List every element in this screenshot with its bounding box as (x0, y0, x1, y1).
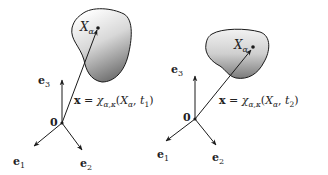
axis-label-e3: e3 (38, 74, 50, 89)
origin-point (60, 121, 63, 124)
axis-label-e3: e3 (171, 63, 183, 78)
panel-t2: Xα e3 e1 e2 0 x = χα,κ(Xα, t2) (157, 29, 299, 166)
axis-label-e2: e2 (80, 157, 92, 172)
axis-e2 (62, 123, 82, 150)
motion-equation: x = χα,κ(Xα, t2) (219, 94, 299, 109)
body-region (206, 29, 269, 78)
origin-label: 0 (183, 111, 191, 124)
axis-e1 (34, 123, 62, 146)
configuration-diagram: Xα e3 e1 e2 0 x = χα,κ(Xα, t1) Xα e3 e1 … (0, 0, 328, 175)
axis-label-e1: e1 (13, 155, 25, 170)
panel-t1: Xα e3 e1 e2 0 x = χα,κ(Xα, t1) (13, 9, 154, 172)
material-point (96, 26, 100, 30)
origin-label: 0 (50, 116, 58, 129)
axis-e2 (195, 119, 216, 145)
origin-point (193, 117, 196, 120)
axis-label-e2: e2 (212, 151, 224, 166)
material-point (251, 45, 255, 49)
motion-equation: x = χα,κ(Xα, t1) (74, 94, 154, 109)
axis-label-e1: e1 (157, 148, 169, 163)
